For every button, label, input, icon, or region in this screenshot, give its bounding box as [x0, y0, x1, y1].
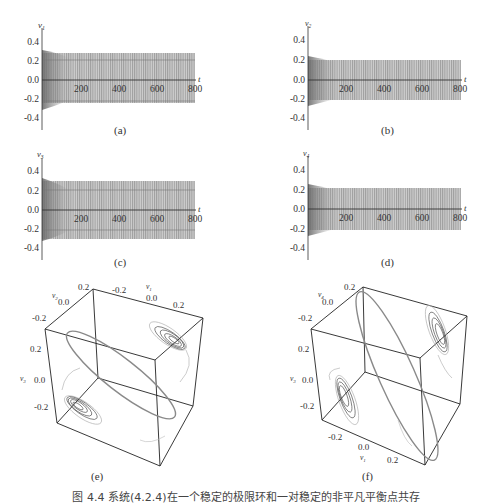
ytick-label: -0.4	[290, 113, 305, 123]
y-axis-label: v2	[305, 19, 312, 29]
xtick-label: 600	[415, 84, 430, 94]
ytick-label: -0.4	[24, 113, 39, 123]
axis-label-v3: v3	[20, 374, 26, 384]
plot-e	[45, 289, 203, 466]
axis-label-v2: v2	[52, 291, 58, 301]
plot-f-labels: 0.2 0.0 -0.2 v4 0.2 0.0 -0.2 v3 -0.2 0.0…	[290, 282, 398, 465]
limit-cycle	[343, 285, 451, 468]
x-axis-label: t	[198, 74, 201, 84]
xtick-label: 200	[339, 84, 354, 94]
xtick-label: 800	[453, 84, 468, 94]
transient-region	[308, 184, 335, 236]
ytick-label: -0.4	[24, 243, 39, 253]
tick-label: 0.0	[58, 297, 70, 307]
axis-label-v4: v4	[318, 290, 324, 300]
xtick-label: 400	[377, 213, 392, 223]
x-axis-label: t	[464, 203, 467, 213]
ytick-label: 0.0	[27, 75, 39, 85]
xtick-label: 600	[150, 214, 165, 224]
panel-label-c: (c)	[114, 256, 126, 268]
ytick-label: -0.2	[24, 224, 39, 234]
tick-label: 0.0	[302, 375, 314, 385]
xtick-label: 200	[339, 213, 354, 223]
xtick-label: 800	[453, 213, 468, 223]
y-axis-label: v4	[303, 149, 310, 159]
ytick-label: -0.4	[290, 243, 305, 253]
tick-label: -0.2	[32, 313, 46, 323]
tick-label: -0.2	[34, 402, 48, 412]
x-axis-label: t	[464, 74, 467, 84]
tick-label: 0.2	[173, 300, 184, 310]
axis-label-v3: v3	[290, 374, 296, 384]
tick-label: -0.2	[112, 285, 126, 295]
tick-label: 0.2	[30, 344, 41, 354]
y-axis-label: v3	[37, 149, 44, 160]
panel-label-a: (a)	[114, 124, 126, 136]
ytick-label: 0.4	[293, 165, 305, 175]
xtick-label: 400	[112, 84, 127, 94]
ytick-label: 0.2	[27, 186, 39, 196]
ytick-label: 0.4	[27, 37, 39, 47]
axis-label-v1: v1	[146, 282, 152, 292]
ytick-label: -0.2	[24, 94, 39, 104]
plot-d: 0.4 0.2 0.0 -0.2 -0.4 200 400 600 800 t …	[290, 149, 467, 260]
plot-c: 0.4 0.2 0.0 -0.2 -0.4 200 400 600 800 t …	[24, 149, 202, 260]
spiral-attractor-upper	[421, 303, 454, 378]
panel-label-d: (d)	[381, 256, 394, 268]
tick-label: 0.0	[34, 375, 46, 385]
transient-region	[308, 56, 335, 106]
tick-label: -0.2	[298, 313, 312, 323]
plot-a: 0.4 0.2 0.0 -0.2 -0.4 200 400 600 800 t …	[24, 20, 202, 130]
plot-b: 0.4 0.2 0.0 -0.2 -0.4 200 400 600 800 t …	[290, 19, 467, 130]
panel-label-f: (f)	[362, 470, 373, 482]
tick-label: 0.2	[78, 282, 89, 292]
plot-e-labels: 0.2 0.0 -0.2 v2 -0.2 0.0 0.2 v1 0.2 0.0 …	[20, 282, 184, 412]
tick-label: 0.0	[146, 293, 158, 303]
y-axis-label: v1	[38, 20, 45, 31]
tick-label: -0.2	[300, 401, 314, 411]
xtick-label: 600	[415, 213, 430, 223]
xtick-label: 800	[188, 214, 203, 224]
figure-caption: 图 4.4 系统(4.2.4)在一个稳定的极限环和一对稳定的非平凡平衡点共存	[0, 488, 492, 504]
spiral-attractor-upper	[145, 317, 190, 382]
ytick-label: 0.2	[27, 56, 39, 66]
ytick-label: 0.2	[293, 185, 305, 195]
ytick-label: -0.2	[290, 94, 305, 104]
xtick-label: 200	[74, 214, 89, 224]
xtick-label: 800	[188, 84, 203, 94]
tick-label: 0.2	[387, 455, 398, 465]
axis-label-v1: v1	[360, 453, 366, 463]
ytick-label: 0.0	[293, 204, 305, 214]
tick-label: 0.2	[298, 344, 309, 354]
ytick-label: -0.2	[290, 224, 305, 234]
ytick-label: 0.2	[293, 55, 305, 65]
x-axis-label: t	[198, 204, 201, 214]
tick-label: -0.2	[328, 432, 342, 442]
ytick-label: 0.4	[293, 35, 305, 45]
panel-label-b: (b)	[381, 124, 394, 136]
tick-label: 0.0	[358, 442, 370, 452]
xtick-label: 400	[377, 84, 392, 94]
ytick-label: 0.0	[27, 205, 39, 215]
xtick-label: 600	[150, 84, 165, 94]
ytick-label: 0.4	[27, 166, 39, 176]
panel-label-e: (e)	[91, 470, 103, 482]
ytick-label: 0.0	[293, 75, 305, 85]
tick-label: 0.2	[344, 282, 355, 292]
xtick-label: 400	[112, 214, 127, 224]
xtick-label: 200	[74, 84, 89, 94]
